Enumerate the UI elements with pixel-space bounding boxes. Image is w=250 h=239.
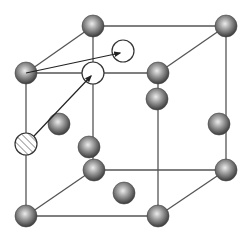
atom-bottom-face-center (113, 182, 135, 204)
atom-front-face-right-atom (146, 88, 168, 110)
edge-top-right-diag (158, 26, 226, 73)
atom-corner-front-top-right (147, 62, 169, 84)
jump-arrows (26, 53, 120, 136)
atom-right-face-center (208, 113, 230, 135)
lattice-canvas (0, 0, 250, 239)
atom-corner-back-bottom-left (83, 159, 105, 181)
edge-bottom-right-diag (158, 170, 226, 216)
atom-corner-front-bottom-right (147, 205, 169, 227)
hatched-solute-atom (15, 133, 37, 155)
solute-atoms (15, 133, 37, 155)
atom-corner-back-top-right (215, 15, 237, 37)
crystal-lattice-diagram: Cubic crystal lattice with interstitial/… (0, 0, 250, 239)
open-site-top (112, 40, 134, 62)
open-site-front (82, 62, 104, 84)
atom-corner-back-top-left (82, 15, 104, 37)
atom-corner-front-bottom-left (15, 205, 37, 227)
edge-bottom-left-diag (26, 170, 93, 216)
atom-left-face-center (48, 113, 70, 135)
atom-back-face-atom (78, 136, 100, 158)
atom-corner-back-bottom-right (215, 159, 237, 181)
